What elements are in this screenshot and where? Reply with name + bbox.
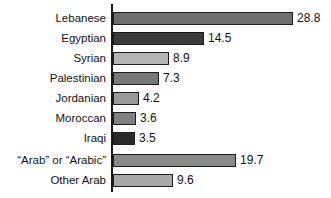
bar-row: Lebanese 28.8 xyxy=(0,12,331,25)
bar-iraqi xyxy=(113,132,135,145)
bar-lebanese xyxy=(113,12,293,25)
value-label: 19.7 xyxy=(240,152,263,168)
value-label: 8.9 xyxy=(173,50,190,66)
category-label: Palestinian xyxy=(0,70,106,86)
value-label: 14.5 xyxy=(208,30,231,46)
bar-arab-or-arabic xyxy=(113,154,236,167)
category-label: Iraqi xyxy=(0,130,106,146)
category-label: Lebanese xyxy=(0,10,106,26)
bar-row: Syrian 8.9 xyxy=(0,52,331,65)
bar-palestinian xyxy=(113,72,159,85)
bar-row: Egyptian 14.5 xyxy=(0,32,331,45)
bar-egyptian xyxy=(113,32,204,45)
bar-syrian xyxy=(113,52,169,65)
value-label: 3.6 xyxy=(140,110,157,126)
bar-row: Other Arab 9.6 xyxy=(0,174,331,187)
value-label: 28.8 xyxy=(297,10,320,26)
bar-row: Moroccan 3.6 xyxy=(0,112,331,125)
value-label: 7.3 xyxy=(163,70,180,86)
bar-row: Palestinian 7.3 xyxy=(0,72,331,85)
category-label: “Arab” or “Arabic” xyxy=(0,152,106,168)
category-label: Syrian xyxy=(0,50,106,66)
bar-other-arab xyxy=(113,174,173,187)
category-label: Egyptian xyxy=(0,30,106,46)
bar-jordanian xyxy=(113,92,139,105)
bar-row: Jordanian 4.2 xyxy=(0,92,331,105)
category-label: Other Arab xyxy=(0,172,106,188)
category-label: Moroccan xyxy=(0,110,106,126)
bar-row: “Arab” or “Arabic” 19.7 xyxy=(0,154,331,167)
value-label: 9.6 xyxy=(177,172,194,188)
value-label: 4.2 xyxy=(143,90,160,106)
value-label: 3.5 xyxy=(139,130,156,146)
bar-row: Iraqi 3.5 xyxy=(0,132,331,145)
bar-moroccan xyxy=(113,112,136,125)
category-label: Jordanian xyxy=(0,90,106,106)
bar-chart: Lebanese 28.8 Egyptian 14.5 Syrian 8.9 P… xyxy=(0,0,331,198)
